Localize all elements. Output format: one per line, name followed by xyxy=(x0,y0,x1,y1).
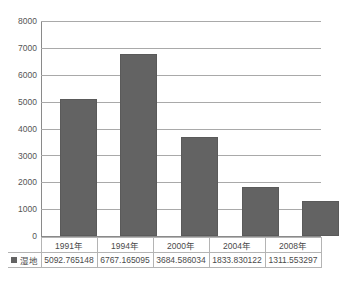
y-tick-7000: 7000 xyxy=(1,44,37,53)
value-cell-2: 3684.586034 xyxy=(153,253,209,268)
y-tick-6000: 6000 xyxy=(1,71,37,80)
bar-1994 xyxy=(120,54,157,236)
table-row-years: 1991年 1994年 2000年 2004年 2008年 xyxy=(8,238,321,253)
y-tick-1000: 1000 xyxy=(1,205,37,214)
gridline-6000 xyxy=(41,75,321,76)
y-tick-3000: 3000 xyxy=(1,152,37,161)
bar-2000 xyxy=(181,137,218,236)
year-cell-1: 1994年 xyxy=(97,238,153,253)
table-corner-cell xyxy=(8,238,41,253)
gridline-7000 xyxy=(41,48,321,49)
value-cell-0: 5092.765148 xyxy=(41,253,97,268)
y-tick-4000: 4000 xyxy=(1,125,37,134)
legend-swatch-icon xyxy=(11,257,17,263)
data-table: 1991年 1994年 2000年 2004年 2008年 湿地 5092.76… xyxy=(8,237,322,268)
year-cell-2: 2000年 xyxy=(153,238,209,253)
bar-2008 xyxy=(302,201,339,236)
plot-area xyxy=(41,21,321,236)
table-row-values: 湿地 5092.765148 6767.165095 3684.586034 1… xyxy=(8,253,321,268)
value-cell-3: 1833.830122 xyxy=(209,253,265,268)
y-tick-8000: 8000 xyxy=(1,17,37,26)
value-cell-4: 1311.553297 xyxy=(265,253,321,268)
legend-label: 湿地 xyxy=(20,256,38,266)
y-tick-5000: 5000 xyxy=(1,98,37,107)
y-tick-2000: 2000 xyxy=(1,178,37,187)
year-cell-3: 2004年 xyxy=(209,238,265,253)
value-cell-1: 6767.165095 xyxy=(97,253,153,268)
bar-1991 xyxy=(60,99,97,236)
year-cell-4: 2008年 xyxy=(265,238,321,253)
gridline-8000 xyxy=(41,21,321,22)
year-cell-0: 1991年 xyxy=(41,238,97,253)
bar-2004 xyxy=(242,187,279,236)
legend-entry: 湿地 xyxy=(8,253,41,268)
